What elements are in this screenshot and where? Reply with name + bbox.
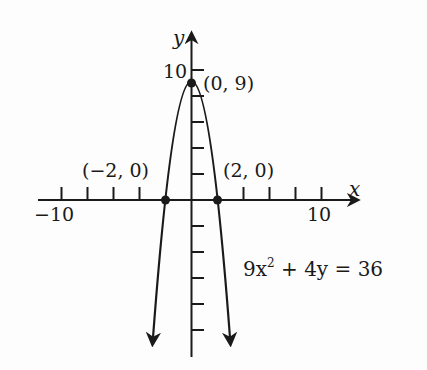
parabola-plot: y x 10 −10 10 (0, 9) (−2, 0) (2, 0) 9x2 … <box>0 0 427 370</box>
vertex-point <box>187 79 196 88</box>
y-axis-label: y <box>172 26 185 50</box>
x-tick-label-neg10: −10 <box>34 203 74 225</box>
equation-part-2: + 4y = 36 <box>275 257 383 281</box>
right-intercept-point <box>213 196 222 205</box>
left-intercept-point <box>161 196 170 205</box>
graph-figure: y x 10 −10 10 (0, 9) (−2, 0) (2, 0) 9x2 … <box>0 0 427 370</box>
vertex-label: (0, 9) <box>203 72 254 94</box>
equation-exponent: 2 <box>267 256 275 270</box>
left-intercept-label: (−2, 0) <box>82 159 149 181</box>
x-axis-label: x <box>349 177 360 201</box>
y-tick-label-10: 10 <box>163 60 187 82</box>
equation-label: 9x2 + 4y = 36 <box>243 256 383 281</box>
equation-part-1: 9x <box>243 257 268 281</box>
x-tick-label-10: 10 <box>307 203 331 225</box>
right-intercept-label: (2, 0) <box>223 159 274 181</box>
